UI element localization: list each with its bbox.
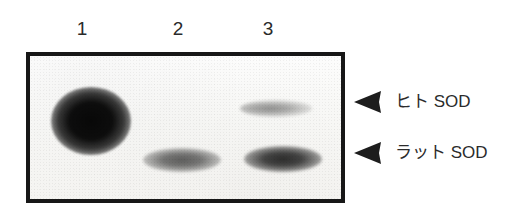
annotation-human-sod: ヒト SOD (353, 90, 471, 114)
annotation-human-sod-label: ヒト SOD (395, 90, 471, 114)
lane-label-3: 3 (256, 18, 280, 40)
band-lane2-rat-sod (143, 148, 221, 172)
band-lane3-human-sod (240, 100, 312, 117)
blot-panel (26, 52, 345, 203)
left-triangle-arrow-icon (353, 141, 385, 165)
lane-label-2: 2 (166, 18, 190, 40)
band-lane1-human-sod (51, 87, 131, 155)
left-triangle-arrow-icon (353, 90, 385, 114)
annotation-rat-sod: ラット SOD (353, 141, 488, 165)
lane-label-1: 1 (70, 18, 94, 40)
band-lane3-rat-sod (244, 146, 322, 172)
blot-figure: 1 2 3 ヒト SOD ラット SOD (0, 0, 529, 214)
annotation-rat-sod-label: ラット SOD (395, 141, 488, 165)
